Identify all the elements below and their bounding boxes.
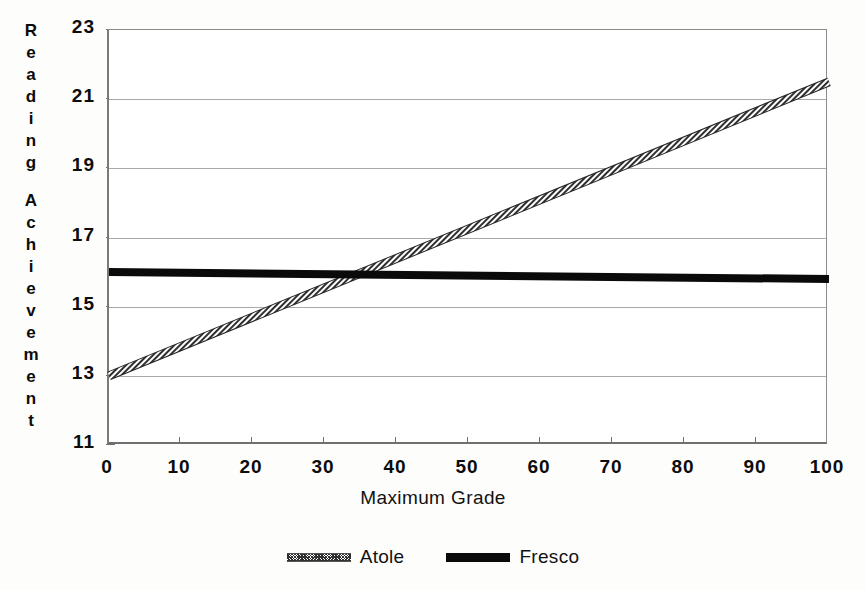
y-axis-title-char: h (26, 234, 36, 256)
y-axis-title-char: i (29, 256, 34, 278)
x-axis-tick-mark (467, 437, 468, 444)
y-axis-tick-label: 19 (49, 154, 95, 176)
x-axis-tick-mark (755, 437, 756, 444)
x-axis-tick-label: 20 (221, 456, 281, 478)
y-axis-tick-label: 21 (49, 85, 95, 107)
legend-swatch-fresco-icon (446, 553, 510, 562)
legend-item-atole[interactable]: Atole (287, 546, 405, 568)
y-axis-title-char: m (23, 344, 38, 366)
y-axis-title-char: t (28, 410, 34, 432)
y-axis-title-char: e (26, 366, 35, 388)
chart-legend: AtoleFresco (0, 546, 866, 568)
x-axis-tick-mark (539, 437, 540, 444)
series-line-fresco (109, 272, 829, 279)
y-axis-tick-label: 23 (49, 16, 95, 38)
y-axis-title-char: a (26, 64, 35, 86)
y-axis-title-char: R (25, 20, 37, 42)
x-axis-tick-mark (251, 437, 252, 444)
y-axis-title-char (29, 174, 34, 190)
x-axis-tick-label: 0 (77, 456, 137, 478)
y-axis-title-char: i (29, 108, 34, 130)
x-axis-tick-label: 100 (797, 456, 857, 478)
x-axis-tick-mark (395, 437, 396, 444)
y-axis-title-char: n (26, 388, 36, 410)
series-line-atole (109, 82, 829, 376)
y-axis-title-char: e (26, 42, 35, 64)
x-axis-title: Maximum Grade (0, 487, 866, 509)
x-axis-tick-label: 10 (149, 456, 209, 478)
x-axis-tick-mark (179, 437, 180, 444)
y-axis-title-char: g (26, 152, 36, 174)
x-axis-tick-label: 40 (365, 456, 425, 478)
y-axis-tick-label: 13 (49, 362, 95, 384)
y-axis-tick-label: 15 (49, 293, 95, 315)
x-axis-tick-label: 30 (293, 456, 353, 478)
y-axis-title-char: d (26, 86, 36, 108)
y-axis-title-char: A (25, 190, 37, 212)
x-axis-tick-mark (683, 437, 684, 444)
legend-label: Atole (360, 546, 405, 568)
x-axis-tick-label: 80 (653, 456, 713, 478)
series-layer (109, 30, 829, 445)
y-axis-title-char: e (26, 322, 35, 344)
x-axis-tick-mark (323, 437, 324, 444)
y-axis-title-char: n (26, 130, 36, 152)
chart-figure: Reading Achievement 11131517192123 01020… (0, 0, 866, 590)
legend-label: Fresco (519, 546, 579, 568)
y-axis-tick-label: 17 (49, 224, 95, 246)
x-axis-tick-label: 90 (725, 456, 785, 478)
x-axis-tick-label: 70 (581, 456, 641, 478)
y-axis-tick-label: 11 (49, 431, 95, 453)
y-axis-title-char: e (26, 278, 35, 300)
plot-area (107, 29, 827, 444)
y-axis-title-char: v (26, 300, 35, 322)
y-axis-title: Reading Achievement (14, 20, 48, 432)
x-axis-tick-mark (611, 437, 612, 444)
y-axis-title-char: c (26, 212, 35, 234)
legend-swatch-atole-icon (287, 553, 351, 562)
legend-item-fresco[interactable]: Fresco (446, 546, 579, 568)
x-axis-tick-label: 60 (509, 456, 569, 478)
x-axis-tick-label: 50 (437, 456, 497, 478)
